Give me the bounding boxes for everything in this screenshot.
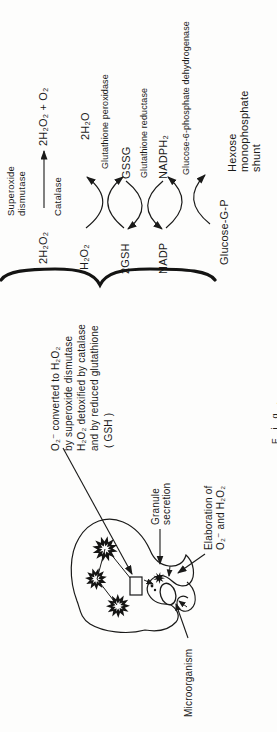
enzyme-superoxide-dismutase-line1: Superoxide [6,166,16,216]
figure-caption-fragment: Fig. [271,393,277,444]
discharging-granule-rect [130,577,142,595]
reductase-curve-nadph2-to-nadp [148,181,163,229]
scheme-brace [1,269,215,285]
note-line-4: and by reduced glutathione [90,325,100,451]
enzyme-g6pd: Glucose-6-phosphate dehydrogenase [182,21,191,175]
phagosome-arrow-2 [169,566,170,576]
g6pd-curve-nadp-to-nadph2 [166,177,182,228]
granule-chain-line-2 [97,579,117,605]
figure-page: Superoxide dismutase 2H₂O₂ 2H₂O₂ + O₂ Ca… [0,0,277,732]
granule-secretion-label-line1: Granule [151,488,161,525]
note-line-2: by superoxide dismutase [64,336,74,451]
label-monophosphate: monophosphate [239,91,250,173]
species-nadph2: NADPH₂ [158,135,169,179]
elaboration-label-line2: O₂⁻ and H₂O₂ [216,486,226,550]
granule-secretion-label-line2: secretion [162,483,172,525]
granule-content-dot-2 [154,589,156,591]
microorganism-label: Microorganism [184,649,194,717]
enzyme-superoxide-dismutase-line2: dismutase [17,171,27,216]
reductase-curve-gssg-to-2gsh [126,181,142,229]
peroxidase-curve-2gsh-to-gssg [108,177,124,228]
phagosome-arrow-3 [179,601,187,607]
enzyme-glutathione-reductase: Glutathione reductase [140,88,149,178]
rotated-figure: Superoxide dismutase 2H₂O₂ 2H₂O₂ + O₂ Ca… [0,0,277,732]
species-nadp: NADP [158,243,169,274]
species-2h2o2-substrate: 2H₂O₂ [38,232,49,264]
species-2h2o2-plus-o2: 2H₂O₂ + O₂ [38,87,49,146]
elaboration-arrow [178,554,205,573]
microorganism-leader-line [176,604,188,638]
note-line-5: ( GSH ) [104,413,114,448]
note-line-1: O₂⁻ converted to H₂O₂ [51,347,61,452]
peroxidase-curve-h2o2-to-2h2o [86,177,103,228]
species-glucose-g-p: Glucose-G-P [219,199,230,265]
species-2gsh: 2GSH [120,243,131,274]
enzyme-catalase: Catalase [53,177,63,216]
g6pd-curve-glucose-to-shunt [194,175,210,224]
granule-content-dot-1 [151,585,154,588]
elaboration-label-line1: Elaboration of [204,485,214,550]
enzyme-glutathione-peroxidase: Glutathione peroxidase [101,74,110,169]
species-h2o2: H₂O₂ [79,244,90,270]
label-hexose: Hexose [227,134,238,173]
label-shunt: shunt [251,144,262,172]
released-granule-starburst [153,572,165,584]
note-leader-arrow [63,448,132,574]
species-gssg: GSSG [121,146,132,179]
note-line-3: H₂O₂ detoxified by catalase [77,324,87,451]
species-2h2o: 2H₂O [80,112,91,140]
